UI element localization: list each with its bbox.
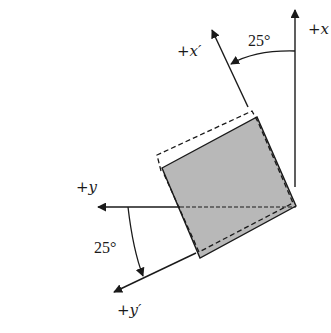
x-prime-axis-arrow xyxy=(212,30,248,107)
y-prime-axis-label: +y′ xyxy=(117,303,141,318)
y-axis-label: +y xyxy=(76,180,97,195)
rotation-diagram xyxy=(0,0,331,333)
x-prime-axis-label: +x′ xyxy=(177,44,201,59)
top-angle-label: 25° xyxy=(248,33,270,49)
bottom-angle-label: 25° xyxy=(94,240,116,256)
bottom-angle-arc xyxy=(128,207,143,276)
y-prime-axis-arrow xyxy=(114,253,196,292)
solid-element-square xyxy=(162,117,296,258)
x-axis-label: +x xyxy=(308,22,329,37)
top-angle-arc xyxy=(231,51,295,64)
